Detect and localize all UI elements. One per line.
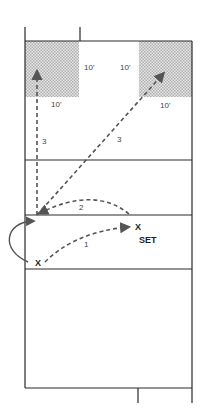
dim-label: 10' xyxy=(51,100,62,109)
dim-label: 10' xyxy=(84,63,95,72)
path-label: 3 xyxy=(42,137,47,146)
dim-label: 10' xyxy=(160,101,171,110)
path-2-arrow xyxy=(40,200,129,214)
dim-label: 10' xyxy=(120,63,131,72)
hitter-mark: X xyxy=(35,258,41,268)
setter-mark: X xyxy=(135,222,141,232)
right-deep-corner-zone xyxy=(139,41,192,97)
hitter-approach-arrow xyxy=(9,221,33,262)
path-label: 2 xyxy=(79,203,84,212)
setter-label: SET xyxy=(139,235,157,245)
left-deep-corner-zone xyxy=(25,41,79,97)
volleyball-court-diagram: 10' 10' 10' 10' 3 3 2 1 X SET X xyxy=(0,0,208,414)
path-label: 3 xyxy=(117,135,122,144)
path-label: 1 xyxy=(84,240,89,249)
